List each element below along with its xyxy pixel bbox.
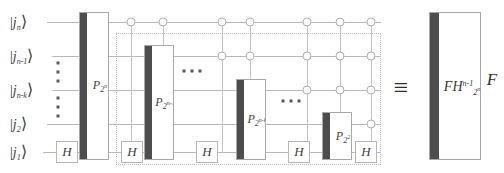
ket-label-q-n-1: |jn-1⟩ [10,46,33,67]
control-dot [336,52,345,61]
phase-gate-p-2-2[interactable]: P22 [322,112,352,160]
hadamard-gate[interactable]: H [196,141,218,163]
gate-spine [237,80,244,159]
ket-subscript: n-1 [17,57,28,66]
control-dot [336,18,345,27]
hadamard-gate[interactable]: H [355,141,377,163]
quantum-circuit-figure: |jn⟩ |jn-1⟩ |jn-k⟩ |j2⟩ |j1⟩ H H H H [0,0,504,173]
phase-gate-label: P2n-1 [155,94,174,110]
horizontal-ellipsis [282,100,301,103]
equivalence-symbol: ≡ [394,73,409,103]
ket-label-q-n-k: |jn-k⟩ [10,80,33,101]
ket-subscript: n-k [17,91,27,100]
hadamard-gate[interactable]: H [121,141,143,163]
operator-f-label: F [487,70,497,90]
phase-gate-label: P2n-k [247,111,266,127]
phase-gate-p-2-n[interactable]: P2n [79,12,109,160]
control-dot [159,18,168,27]
control-dot [367,52,376,61]
control-dot [367,120,376,129]
gate-spine [80,13,87,159]
hadamard-gate[interactable]: H [56,141,78,163]
control-dot [218,52,227,61]
control-dot [246,18,255,27]
ket-label-q-1: |j1⟩ [10,142,27,163]
control-dot [127,18,136,27]
control-dot [246,52,255,61]
control-dot [303,86,312,95]
control-dot [303,52,312,61]
ket-label-q-2: |j2⟩ [10,114,27,135]
control-dot [336,86,345,95]
horizontal-ellipsis [183,70,202,73]
combined-gate-label: FHn-12n [444,79,480,97]
hadamard-gate[interactable]: H [288,141,310,163]
phase-gate-label: P22 [336,129,350,145]
gate-spine [323,113,330,159]
ket-label-q-n: |jn⟩ [10,12,27,33]
gate-spine [145,46,152,159]
control-dot [303,18,312,27]
phase-gate-p-2-n-1[interactable]: P2n-1 [144,45,174,160]
control-dot [367,86,376,95]
phase-gate-label: P2n [93,78,107,94]
control-dot [218,18,227,27]
vertical-ellipsis [57,97,60,118]
control-dot [367,18,376,27]
vertical-ellipsis [57,62,60,83]
gate-spine [430,13,439,159]
phase-gate-p-2-n-k[interactable]: P2n-k [236,79,266,160]
